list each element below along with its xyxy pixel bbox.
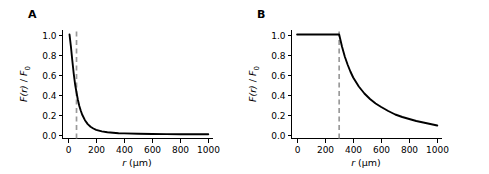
y-tick-label: 0.8 bbox=[271, 51, 286, 61]
x-tick-label: 0 bbox=[66, 145, 72, 155]
y-tick-label: 0.4 bbox=[271, 91, 286, 101]
figure-container: A 02004006008001000 0.00.20.40.60.81.0 r… bbox=[0, 0, 489, 174]
y-label-sub-a: 0 bbox=[24, 66, 32, 70]
y-label-num-b: F(r) bbox=[247, 85, 258, 102]
y-tick-label: 0.4 bbox=[42, 91, 57, 101]
y-tick-label: 0.0 bbox=[271, 131, 286, 141]
y-tick-label: 0.6 bbox=[271, 71, 286, 81]
y-tick-label: 1.0 bbox=[42, 31, 57, 41]
panel-a-x-ticks: 02004006008001000 bbox=[66, 139, 221, 155]
panel-a-plot: 02004006008001000 0.00.20.40.60.81.0 r (… bbox=[0, 0, 244, 174]
y-tick-label: 0.2 bbox=[271, 111, 285, 121]
x-tick-label: 600 bbox=[373, 145, 390, 155]
x-tick-label: 1000 bbox=[197, 145, 220, 155]
y-label-num-a: F(r) bbox=[18, 85, 29, 102]
panel-b-y-axis-label: F(r) / F0 bbox=[247, 66, 261, 102]
x-tick-label: 1000 bbox=[426, 145, 449, 155]
x-tick-label: 200 bbox=[88, 145, 105, 155]
y-tick-label: 1.0 bbox=[271, 31, 286, 41]
panel-b-plot: 02004006008001000 0.00.20.40.60.81.0 r (… bbox=[245, 0, 489, 174]
x-tick-label: 400 bbox=[116, 145, 133, 155]
axis-spines bbox=[63, 30, 213, 139]
decay-curve-b bbox=[297, 35, 437, 126]
x-tick-label: 0 bbox=[295, 145, 301, 155]
x-tick-label: 800 bbox=[401, 145, 418, 155]
y-tick-label: 0.0 bbox=[42, 131, 57, 141]
panel-a-y-axis-label: F(r) / F0 bbox=[18, 66, 32, 102]
panel-a-axes bbox=[63, 30, 213, 139]
panel-b-x-axis-label: r (µm) bbox=[351, 157, 381, 168]
y-label-sub-b: 0 bbox=[253, 66, 261, 70]
y-tick-label: 0.2 bbox=[42, 111, 56, 121]
x-tick-label: 600 bbox=[144, 145, 161, 155]
decay-curve-a bbox=[70, 35, 209, 135]
x-label-unit-a: (µm) bbox=[129, 157, 152, 168]
x-tick-label: 400 bbox=[345, 145, 362, 155]
panel-a-x-axis-label: r (µm) bbox=[122, 157, 152, 168]
panel-a: A 02004006008001000 0.00.20.40.60.81.0 r… bbox=[0, 0, 244, 174]
x-tick-label: 200 bbox=[317, 145, 334, 155]
x-label-unit-b: (µm) bbox=[358, 157, 381, 168]
y-label-sep-a: / bbox=[18, 76, 29, 85]
y-tick-label: 0.8 bbox=[42, 51, 57, 61]
panel-b: B 02004006008001000 0.00.20.40.60.81.0 r… bbox=[245, 0, 489, 174]
panel-b-x-ticks: 02004006008001000 bbox=[295, 139, 450, 155]
x-tick-label: 800 bbox=[172, 145, 189, 155]
y-label-sep-b: / bbox=[247, 76, 258, 85]
y-tick-label: 0.6 bbox=[42, 71, 57, 81]
panel-a-y-ticks: 0.00.20.40.60.81.0 bbox=[42, 31, 63, 141]
panel-b-y-ticks: 0.00.20.40.60.81.0 bbox=[271, 31, 292, 141]
